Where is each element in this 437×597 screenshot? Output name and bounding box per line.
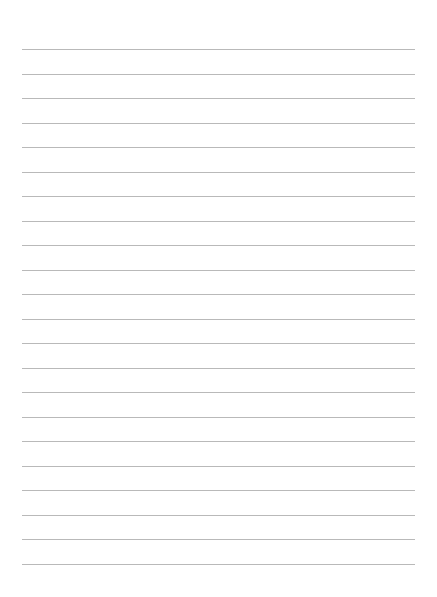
ruled-line	[22, 221, 415, 222]
ruled-line	[22, 392, 415, 393]
ruled-line	[22, 343, 415, 344]
lined-paper-page	[0, 0, 437, 597]
ruled-line	[22, 172, 415, 173]
ruled-line	[22, 564, 415, 565]
ruled-line	[22, 123, 415, 124]
ruled-line	[22, 74, 415, 75]
ruled-line	[22, 294, 415, 295]
ruled-line	[22, 245, 415, 246]
ruled-line	[22, 49, 415, 50]
ruled-line	[22, 147, 415, 148]
ruled-line	[22, 539, 415, 540]
ruled-line	[22, 98, 415, 99]
ruled-line	[22, 417, 415, 418]
ruled-line	[22, 196, 415, 197]
ruled-line	[22, 515, 415, 516]
ruled-line	[22, 270, 415, 271]
ruled-line	[22, 466, 415, 467]
ruled-line	[22, 441, 415, 442]
ruled-line	[22, 490, 415, 491]
ruled-line	[22, 368, 415, 369]
ruled-line	[22, 319, 415, 320]
